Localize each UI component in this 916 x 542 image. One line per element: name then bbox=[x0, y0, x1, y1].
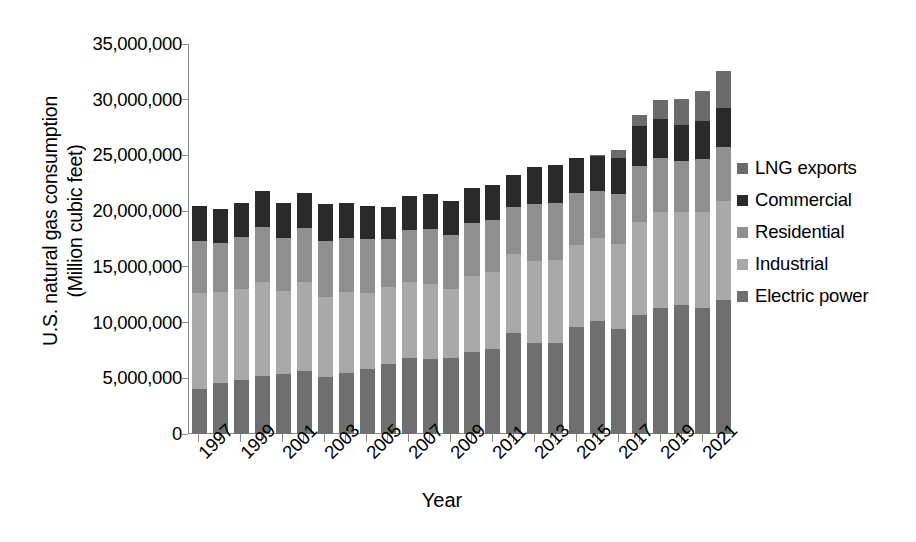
y-axis-tick-labels: 05,000,00010,000,00015,000,00020,000,000… bbox=[0, 44, 182, 434]
bar-segment bbox=[506, 333, 521, 434]
y-axis-tick bbox=[181, 211, 188, 212]
bar bbox=[590, 44, 605, 434]
legend-label: Residential bbox=[755, 221, 844, 243]
bar-segment bbox=[423, 284, 438, 360]
bar-segment bbox=[506, 254, 521, 333]
bar-segment bbox=[318, 241, 333, 297]
bar-segment bbox=[653, 119, 668, 158]
bar-segment bbox=[423, 229, 438, 284]
bar-segment bbox=[632, 115, 647, 126]
bar-segment bbox=[234, 289, 249, 380]
y-axis-tick-label: 10,000,000 bbox=[32, 312, 182, 334]
bar-segment bbox=[318, 204, 333, 240]
bar bbox=[716, 44, 731, 434]
bar-segment bbox=[590, 238, 605, 321]
legend-item[interactable]: LNG exports bbox=[737, 152, 912, 184]
bar-segment bbox=[255, 227, 270, 282]
bar-segment bbox=[234, 237, 249, 289]
bar bbox=[485, 44, 500, 434]
bar bbox=[255, 44, 270, 434]
bar-segment bbox=[527, 343, 542, 434]
bar-segment bbox=[653, 308, 668, 434]
bar-segment bbox=[464, 276, 479, 351]
bar-segment bbox=[381, 287, 396, 364]
bar-segment bbox=[234, 380, 249, 434]
bar-segment bbox=[632, 126, 647, 166]
legend-swatch-icon bbox=[737, 195, 748, 206]
bar-segment bbox=[402, 230, 417, 282]
bar-segment bbox=[402, 196, 417, 229]
bar-segment bbox=[716, 147, 731, 202]
bar-segment bbox=[276, 238, 291, 291]
bar-segment bbox=[611, 329, 626, 434]
bar bbox=[402, 44, 417, 434]
y-axis-tick-label: 15,000,000 bbox=[32, 256, 182, 278]
bar-segment bbox=[485, 272, 500, 349]
bar-segment bbox=[485, 349, 500, 434]
bar-segment bbox=[548, 260, 563, 342]
bar-segment bbox=[402, 282, 417, 358]
bar-segment bbox=[192, 206, 207, 241]
bar-segment bbox=[443, 235, 458, 288]
bar-segment bbox=[485, 185, 500, 220]
bar bbox=[443, 44, 458, 434]
bar-segment bbox=[695, 91, 710, 121]
bar-segment bbox=[611, 194, 626, 244]
y-axis-tick-label: 0 bbox=[32, 423, 182, 445]
legend-swatch-icon bbox=[737, 259, 748, 270]
y-axis-tick bbox=[181, 44, 188, 45]
y-axis-tick-label: 35,000,000 bbox=[32, 33, 182, 55]
bar bbox=[506, 44, 521, 434]
bar-segment bbox=[590, 191, 605, 239]
bar-segment bbox=[276, 291, 291, 375]
legend-label: Commercial bbox=[755, 189, 852, 211]
bar-segment bbox=[360, 293, 375, 369]
bar bbox=[548, 44, 563, 434]
bar bbox=[569, 44, 584, 434]
bar-segment bbox=[548, 165, 563, 203]
bar bbox=[423, 44, 438, 434]
bar-segment bbox=[569, 327, 584, 434]
legend-swatch-icon bbox=[737, 291, 748, 302]
legend-item[interactable]: Commercial bbox=[737, 184, 912, 216]
bar-segment bbox=[234, 203, 249, 237]
bar bbox=[611, 44, 626, 434]
bar-segment bbox=[674, 305, 689, 434]
bar-segment bbox=[611, 244, 626, 329]
bar-segment bbox=[297, 228, 312, 282]
x-axis-title-text: Year bbox=[422, 489, 462, 512]
bar-segment bbox=[360, 369, 375, 434]
bar-segment bbox=[527, 167, 542, 204]
bar-segment bbox=[695, 159, 710, 212]
bar bbox=[318, 44, 333, 434]
y-axis-tick-label: 30,000,000 bbox=[32, 89, 182, 111]
bar-segment bbox=[632, 222, 647, 314]
bar-segment bbox=[297, 282, 312, 370]
bar-segment bbox=[569, 193, 584, 244]
bar-segment bbox=[443, 358, 458, 434]
bar-segment bbox=[674, 125, 689, 161]
legend-item[interactable]: Residential bbox=[737, 216, 912, 248]
bar bbox=[339, 44, 354, 434]
bar-segment bbox=[653, 212, 668, 308]
chart-root: U.S. natural gas consumption (Million cu… bbox=[0, 0, 916, 542]
bar-segment bbox=[590, 321, 605, 434]
bar bbox=[632, 44, 647, 434]
bar-segment bbox=[464, 188, 479, 223]
bar-segment bbox=[297, 193, 312, 228]
bar-segment bbox=[632, 315, 647, 434]
bar-segment bbox=[569, 158, 584, 194]
bar-segment bbox=[527, 261, 542, 342]
bar-segment bbox=[611, 150, 626, 158]
bar-segment bbox=[527, 204, 542, 261]
bar-segment bbox=[632, 166, 647, 222]
legend-label: LNG exports bbox=[755, 157, 857, 179]
legend-item[interactable]: Electric power bbox=[737, 280, 912, 312]
bar-segment bbox=[360, 239, 375, 292]
bar-segment bbox=[716, 300, 731, 434]
bar-segment bbox=[674, 212, 689, 304]
bar-segment bbox=[402, 358, 417, 434]
bar-segment bbox=[423, 194, 438, 229]
legend-item[interactable]: Industrial bbox=[737, 248, 912, 280]
bar-segment bbox=[716, 108, 731, 147]
